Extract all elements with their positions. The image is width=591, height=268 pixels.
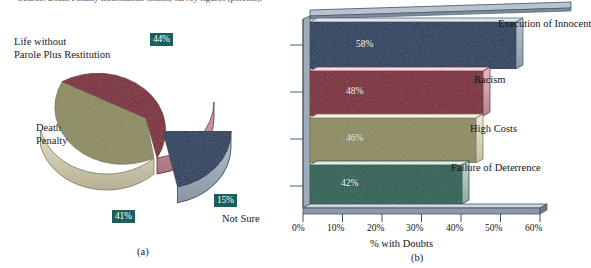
chart-top-rail (310, 2, 571, 19)
bar-failure-of-deterrence (310, 161, 469, 204)
bar-label-failure-of-deterrence: Failure of Deterrence (451, 162, 541, 175)
panel-b-bar-chart: 58% 48% 46% 42% Execution of Innocent Ra… (290, 0, 583, 268)
pie-slice-not-sure (163, 131, 231, 203)
bar-racism (310, 67, 490, 116)
bar-svg (290, 0, 583, 250)
pie-value-15: 15% (214, 194, 237, 207)
x-tick-30: 30% (406, 223, 423, 233)
pie-label-life-without-parole: Life without Parole Plus Restitution (14, 36, 110, 61)
x-tick-0: 0% (292, 223, 305, 233)
bar-value-46: 46% (346, 133, 363, 143)
x-axis-floor (303, 204, 547, 214)
panel-a-pie-chart: Life without Parole Plus Restitution Dea… (0, 0, 290, 268)
panel-a-caption: (a) (137, 246, 149, 257)
bar-value-58: 58% (356, 39, 373, 49)
y-axis-wall (303, 16, 310, 208)
pie-label-death-penalty: Death Penalty (36, 122, 68, 147)
bar-label-high-costs: High Costs (470, 123, 517, 136)
x-tick-40: 40% (446, 223, 463, 233)
bar-value-42: 42% (341, 178, 358, 188)
bar-label-racism: Racism (474, 74, 506, 87)
pie-value-41: 41% (112, 210, 135, 223)
x-axis-title: % with Doubts (370, 238, 433, 249)
pie-label-not-sure: Not Sure (222, 213, 260, 226)
pie-value-44: 44% (150, 33, 173, 46)
x-tick-50: 50% (485, 223, 502, 233)
bar-label-execution-of-innocent: Execution of Innocent (498, 18, 591, 31)
x-axis-ticks (303, 214, 540, 222)
x-tick-10: 10% (327, 223, 344, 233)
panel-b-caption: (b) (411, 252, 423, 263)
x-tick-20: 20% (367, 223, 384, 233)
bar-execution-of-innocent (310, 18, 523, 69)
y-axis-ticks (290, 45, 303, 186)
bar-value-48: 48% (346, 86, 363, 96)
bar-high-costs (310, 114, 483, 163)
x-tick-60: 60% (525, 223, 542, 233)
bar-chart-graphic (290, 0, 583, 250)
